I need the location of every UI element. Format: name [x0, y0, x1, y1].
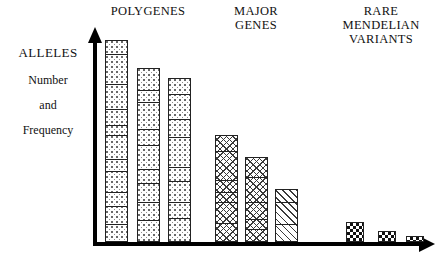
bar-segment [216, 203, 237, 225]
bar-segment [106, 160, 127, 172]
bar-segment [106, 193, 127, 207]
bar-segment [106, 207, 127, 225]
bar-segment [106, 172, 127, 194]
bar-segment [106, 136, 127, 160]
bar-segment [216, 193, 237, 203]
bar-segment [276, 190, 297, 203]
bar-segment [106, 85, 127, 111]
bar-segment [138, 146, 159, 170]
bar-segment [169, 95, 190, 121]
rare-variant-bar-3 [406, 236, 424, 242]
bar-segment [407, 237, 423, 241]
bar-segment [106, 55, 127, 85]
bar-segment [138, 170, 159, 184]
rare-variant-bar-2 [378, 231, 396, 242]
bar-segment [379, 232, 395, 241]
bar-segment [246, 203, 267, 221]
bar-segment [169, 120, 190, 138]
bar-segment [276, 203, 297, 224]
bar-segment [169, 138, 190, 168]
bar-segment [246, 220, 267, 230]
major-gene-bar-2 [245, 157, 268, 242]
bar-segment [169, 219, 190, 241]
bar-segment [138, 221, 159, 241]
bar-segment [106, 126, 127, 136]
bar-segment [216, 136, 237, 152]
major-gene-bar-1 [215, 135, 238, 242]
bar-segment [169, 203, 190, 219]
bar-segment [216, 152, 237, 181]
rare-variant-bar-1 [346, 222, 364, 242]
bar-segment [106, 225, 127, 241]
x-axis-line [93, 242, 423, 246]
plot-area [0, 0, 440, 242]
bar-segment [347, 223, 363, 241]
bar-segment [169, 79, 190, 95]
bar-segment [246, 178, 267, 203]
bar-segment [106, 41, 127, 55]
bar-segment [169, 182, 190, 204]
bar-segment [216, 224, 237, 241]
bar-segment [138, 69, 159, 91]
bar-segment [246, 230, 267, 241]
bar-segment [138, 184, 159, 204]
bar-segment [216, 181, 237, 193]
allele-frequency-schematic-figure: ALLELES Number and Frequency POLYGENES M… [0, 0, 440, 266]
polygene-bar-1 [105, 40, 128, 242]
polygene-bar-3 [168, 78, 191, 242]
polygene-bar-2 [137, 68, 160, 242]
bar-segment [138, 91, 159, 103]
bar-segment [138, 130, 159, 146]
bar-segment [276, 225, 297, 241]
bar-segment [106, 110, 127, 126]
bar-segment [138, 103, 159, 131]
major-gene-bar-3 [275, 189, 298, 242]
bar-segment [169, 168, 190, 182]
bar-segment [138, 203, 159, 221]
bar-segment [246, 158, 267, 178]
